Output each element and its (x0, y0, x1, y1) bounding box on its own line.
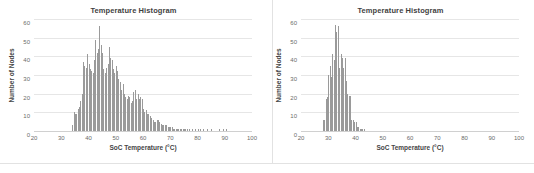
x-tick-label: 80 (461, 135, 468, 141)
plot-wrapper-right: 0102030405060 2030405060708090100 (301, 19, 519, 132)
x-tick-label: 20 (298, 135, 305, 141)
left-histogram-panel: Temperature Histogram Number of Nodes 01… (0, 0, 267, 163)
y-axis-label-text: Number of Nodes (275, 48, 282, 102)
x-tick-label: 50 (112, 135, 119, 141)
x-tick-label: 80 (194, 135, 201, 141)
y-axis-label-text: Number of Nodes (8, 48, 15, 102)
x-tick-label: 50 (379, 135, 386, 141)
figure-page: Temperature Histogram Number of Nodes 01… (0, 0, 534, 173)
y-axis-label: Number of Nodes (6, 19, 16, 132)
page-title: Temperature Histogram (267, 6, 534, 15)
y-axis-label: Number of Nodes (273, 19, 283, 132)
plot-area (301, 19, 519, 132)
x-axis-label: SoC Temperature (°C) (301, 144, 519, 151)
x-axis-line (34, 131, 252, 132)
x-axis-line (301, 131, 519, 132)
x-tick-label: 90 (221, 135, 228, 141)
bar-series (301, 19, 519, 131)
x-tick-label: 40 (85, 135, 92, 141)
x-axis-label: SoC Temperature (°C) (34, 144, 252, 151)
plot-area (34, 19, 252, 132)
x-tick-label: 100 (514, 135, 524, 141)
x-tick-label: 70 (167, 135, 174, 141)
page-title: Temperature Histogram (0, 6, 267, 15)
plot-wrapper-left: 0102030405060 2030405060708090100 (34, 19, 252, 132)
x-tick-label: 60 (407, 135, 414, 141)
x-tick-label: 100 (247, 135, 257, 141)
x-tick-label: 90 (488, 135, 495, 141)
bar-series (34, 19, 252, 131)
histogram-pair: Temperature Histogram Number of Nodes 01… (0, 0, 534, 173)
right-histogram-panel: Temperature Histogram Number of Nodes 01… (267, 0, 534, 163)
x-tick-label: 40 (352, 135, 359, 141)
x-tick-label: 20 (31, 135, 38, 141)
x-tick-label: 70 (434, 135, 441, 141)
x-tick-label: 30 (325, 135, 332, 141)
x-tick-label: 60 (140, 135, 147, 141)
x-tick-label: 30 (58, 135, 65, 141)
